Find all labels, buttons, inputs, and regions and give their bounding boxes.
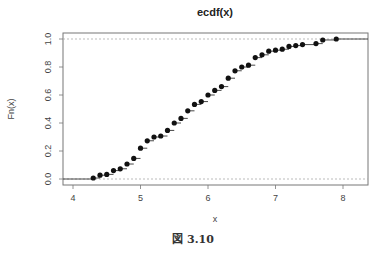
data-point [253, 55, 258, 60]
x-tick-label: 8 [340, 193, 345, 203]
y-tick-label: 0.6 [43, 89, 53, 102]
data-point [145, 138, 150, 143]
y-tick-label: 0.4 [43, 117, 53, 130]
y-tick-label: 0.2 [43, 145, 53, 158]
y-tick-label: 0.0 [43, 173, 53, 186]
y-axis: 0.00.20.40.60.81.0 [43, 33, 63, 186]
data-point [111, 168, 116, 173]
y-tick-label: 0.8 [43, 61, 53, 74]
data-point [104, 172, 109, 177]
data-point [185, 108, 190, 113]
data-point [246, 63, 251, 68]
x-tick-label: 5 [138, 193, 143, 203]
x-axis: 45678 [70, 185, 345, 203]
data-point [172, 120, 177, 125]
data-point [266, 49, 271, 54]
data-points [91, 36, 339, 180]
data-point [293, 43, 298, 48]
data-point [334, 36, 339, 41]
data-point [212, 88, 217, 93]
step-segments [63, 39, 368, 179]
data-point [280, 47, 285, 52]
x-axis-label: x [213, 214, 218, 224]
chart-title: ecdf(x) [197, 6, 233, 18]
figure-caption: 図 3.10 [0, 230, 386, 246]
data-point [165, 128, 170, 133]
data-point [199, 99, 204, 104]
data-point [226, 76, 231, 81]
x-tick-label: 6 [205, 193, 210, 203]
data-point [259, 52, 264, 57]
x-tick-label: 7 [273, 193, 278, 203]
plot-frame [63, 33, 368, 185]
data-point [205, 92, 210, 97]
data-point [91, 175, 96, 180]
data-point [158, 133, 163, 138]
data-point [286, 44, 291, 49]
data-point [97, 173, 102, 178]
y-axis-label: Fn(x) [6, 99, 16, 120]
data-point [232, 68, 237, 73]
data-point [300, 42, 305, 47]
x-tick-label: 4 [70, 193, 75, 203]
ecdf-chart: ecdf(x) 45678 0.00.20.40.60.81.0 x Fn(x) [0, 0, 386, 230]
data-point [313, 41, 318, 46]
data-point [273, 48, 278, 53]
y-tick-label: 1.0 [43, 33, 53, 46]
data-point [178, 116, 183, 121]
reference-lines [63, 39, 368, 179]
data-point [124, 161, 129, 166]
data-point [151, 134, 156, 139]
data-point [138, 146, 143, 151]
data-point [192, 102, 197, 107]
data-point [320, 37, 325, 42]
data-point [118, 166, 123, 171]
data-point [219, 84, 224, 89]
data-point [131, 156, 136, 161]
data-point [239, 64, 244, 69]
